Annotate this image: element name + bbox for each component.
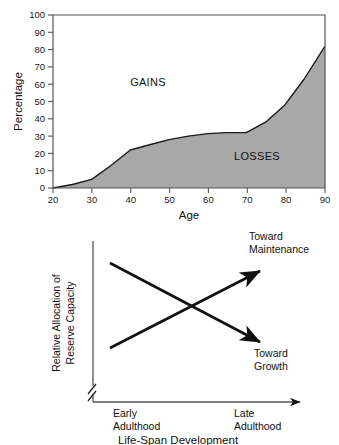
y-tick-label: 20: [34, 148, 45, 159]
losses-region-label: LOSSES: [234, 150, 280, 162]
gains-losses-svg: 100 90 80 70 60 50 40 30 20 10 0 20 30: [0, 0, 339, 222]
x-tick-label: 50: [164, 194, 175, 205]
x-axis-ticks: [53, 188, 325, 193]
toward-maintenance-line1: Toward: [249, 230, 283, 242]
y-tick-label: 30: [34, 131, 45, 142]
x-tick-early-adulthood: Early Adulthood: [113, 407, 160, 432]
y-axis-ticks: [48, 15, 53, 188]
lifespan-development-chart: Relative Allocation of Reserve Capacity …: [0, 218, 339, 445]
y-axis-title: Percentage: [12, 72, 24, 131]
y-tick-label: 100: [29, 9, 45, 20]
toward-maintenance-label: Toward Maintenance: [249, 230, 309, 255]
y-tick-label: 60: [34, 79, 45, 90]
tick-early-line2: Adulthood: [113, 420, 160, 432]
y-axis-tick-labels: 100 90 80 70 60 50 40 30 20 10 0: [29, 9, 45, 193]
y-tick-label: 90: [34, 27, 45, 38]
gains-region-label: GAINS: [130, 76, 166, 88]
y-tick-label: 0: [40, 182, 45, 193]
gains-losses-chart: 100 90 80 70 60 50 40 30 20 10 0 20 30: [0, 0, 339, 222]
tick-late-line1: Late: [234, 407, 255, 419]
y-tick-label: 70: [34, 61, 45, 72]
y-tick-label: 80: [34, 44, 45, 55]
toward-growth-line2: Growth: [254, 360, 288, 372]
y-tick-label: 50: [34, 96, 45, 107]
x-tick-label: 70: [242, 194, 253, 205]
y-tick-label: 40: [34, 113, 45, 124]
x-tick-label: 90: [320, 194, 331, 205]
toward-maintenance-line2: Maintenance: [249, 243, 309, 255]
y-tick-label: 10: [34, 165, 45, 176]
toward-maintenance-arrow: [110, 271, 260, 348]
x-tick-label: 40: [125, 194, 136, 205]
y-axis-title: Relative Allocation of Reserve Capacity: [50, 274, 76, 372]
y-axis-title-line1: Relative Allocation of: [50, 274, 62, 372]
toward-growth-line1: Toward: [254, 347, 288, 359]
x-tick-label: 20: [48, 194, 59, 205]
tick-late-line2: Adulthood: [234, 420, 281, 432]
x-tick-label: 80: [281, 194, 292, 205]
x-axis-tick-labels: 20 30 40 50 60 70 80 90: [48, 194, 331, 205]
x-tick-label: 30: [87, 194, 98, 205]
tick-early-line1: Early: [113, 407, 138, 419]
toward-growth-arrow: [110, 263, 260, 342]
x-tick-late-adulthood: Late Adulthood: [234, 407, 281, 432]
y-axis-title-line2: Reserve Capacity: [64, 281, 76, 365]
x-tick-label: 60: [203, 194, 214, 205]
lifespan-svg: Relative Allocation of Reserve Capacity …: [0, 218, 339, 445]
x-axis-title: Life-Span Development: [118, 434, 239, 445]
axis-break-icon: [88, 384, 96, 401]
toward-growth-label: Toward Growth: [254, 347, 288, 372]
